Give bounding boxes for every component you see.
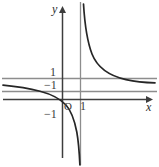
- curve-lower-left-branch: [3, 85, 80, 165]
- y-axis-arrowhead: [59, 6, 66, 13]
- origin-label: O: [64, 101, 72, 112]
- x-tick-label-one: 1: [80, 100, 86, 112]
- y-axis-label: y: [52, 3, 57, 15]
- y-tick-label-negative-one-upper: −1: [44, 79, 57, 91]
- x-axis-label: x: [146, 101, 151, 113]
- graph-canvas: [0, 0, 159, 167]
- y-tick-label-one: 1: [50, 66, 56, 78]
- curve-upper-right-branch: [84, 4, 156, 83]
- graph-figure: y x 1 −1 −1 O 1: [0, 0, 159, 167]
- y-tick-label-negative-one-lower: −1: [44, 108, 57, 120]
